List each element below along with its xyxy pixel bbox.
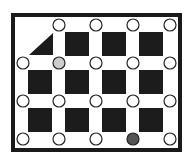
node-circle <box>90 19 102 31</box>
node-circle <box>17 95 29 107</box>
node-circle <box>127 19 139 31</box>
node-circle <box>164 57 176 69</box>
node-circle <box>53 19 65 31</box>
node-circle <box>127 57 139 69</box>
block-square <box>28 108 52 132</box>
node-circle <box>90 133 102 145</box>
block-square <box>65 70 89 94</box>
block-square <box>102 108 126 132</box>
node-circle <box>17 57 29 69</box>
corner-triangle <box>29 33 53 55</box>
node-circle <box>90 95 102 107</box>
block-square <box>139 70 163 94</box>
node-circle <box>90 57 102 69</box>
block-square <box>65 108 89 132</box>
block-square <box>28 70 52 94</box>
node-circle <box>127 95 139 107</box>
node-circle-dark-gray <box>127 133 139 145</box>
node-circle <box>17 133 29 145</box>
block-square <box>139 108 163 132</box>
node-circle <box>164 19 176 31</box>
node-circle-light-gray <box>53 57 65 69</box>
grid-diagram <box>0 0 193 163</box>
node-circle <box>164 133 176 145</box>
block-square <box>139 32 163 56</box>
block-square <box>102 32 126 56</box>
node-circle <box>164 95 176 107</box>
node-circle <box>53 95 65 107</box>
node-circle <box>53 133 65 145</box>
block-square <box>102 70 126 94</box>
block-square <box>65 32 89 56</box>
